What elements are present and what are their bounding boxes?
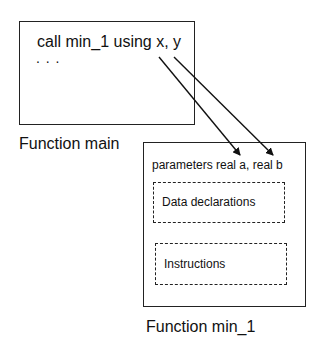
instructions-label: Instructions (164, 257, 225, 271)
parameters-line: parameters real a, real b (152, 158, 283, 172)
main-ellipsis: . . . (36, 50, 60, 66)
function-min1-label: Function min_1 (146, 318, 255, 336)
main-call-line: call min_1 using x, y (37, 33, 181, 51)
data-declarations-label: Data declarations (162, 195, 255, 209)
function-main-label: Function main (19, 135, 120, 153)
